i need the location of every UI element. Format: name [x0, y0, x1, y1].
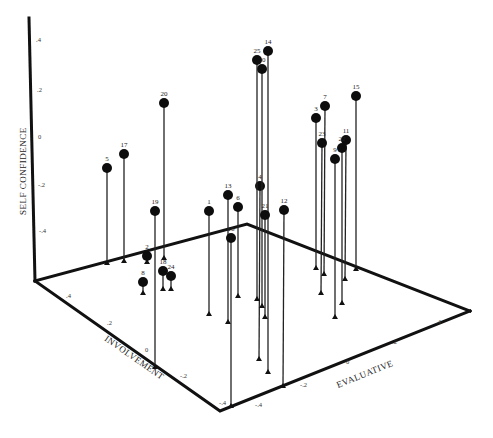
y-tick: -.2 — [300, 381, 307, 388]
3d-scatter-chart: .4 .2 0 -.2 -.4 SELF CONFIDENCE .4 .2 0 … — [0, 0, 493, 438]
point-marker — [311, 113, 321, 123]
x-axis-ticks: .4 .2 0 -.2 -.4 — [66, 292, 227, 406]
z-axis-title: SELF CONFIDENCE — [18, 127, 28, 215]
point-marker — [138, 277, 148, 287]
point-label: 24 — [168, 263, 176, 271]
point-marker — [263, 46, 273, 56]
point-base-marker — [342, 276, 348, 281]
data-point: 2 — [142, 243, 152, 264]
point-label: 23 — [319, 130, 327, 138]
point-marker — [252, 55, 262, 65]
point-label: 15 — [353, 83, 361, 91]
point-label: 13 — [225, 182, 233, 190]
z-tick: .2 — [37, 86, 42, 93]
point-label: 19 — [152, 198, 160, 206]
point-base-marker — [225, 319, 231, 324]
point-stem — [345, 140, 346, 280]
point-base-marker — [206, 311, 212, 316]
point-marker — [279, 205, 289, 215]
z-tick: -.2 — [38, 181, 45, 188]
data-point: 15 — [351, 83, 361, 271]
point-base-marker — [256, 356, 262, 361]
point-marker — [226, 233, 236, 243]
data-point: 17 — [119, 141, 129, 263]
point-marker — [330, 154, 340, 164]
point-marker — [320, 101, 330, 111]
point-marker — [204, 206, 214, 216]
point-base-marker — [321, 271, 327, 276]
x-tick: .2 — [107, 319, 112, 326]
point-marker — [317, 138, 327, 148]
point-label: 16 — [228, 225, 236, 233]
point-marker — [150, 206, 160, 216]
point-marker — [233, 202, 243, 212]
point-label: 7 — [323, 93, 327, 101]
x-tick: -.4 — [219, 399, 227, 406]
point-marker — [166, 271, 176, 281]
point-marker — [257, 64, 267, 74]
point-label: 6 — [236, 194, 240, 202]
point-stem — [259, 186, 260, 360]
floor-back-edge — [35, 224, 470, 311]
point-label: 2 — [145, 243, 149, 251]
data-point: 23 — [317, 130, 327, 295]
point-label: 5 — [105, 155, 109, 163]
y-tick: 0 — [346, 358, 349, 365]
point-stem — [321, 143, 322, 294]
axes-frame — [29, 18, 470, 411]
point-marker — [260, 210, 270, 220]
data-point: 1 — [204, 198, 214, 316]
data-point: 8 — [138, 269, 148, 295]
x-axis-title: INVOLVEMENT — [103, 333, 166, 381]
point-marker — [119, 149, 129, 159]
point-base-marker — [265, 369, 271, 374]
data-point: 5 — [102, 155, 112, 265]
point-label: 22 — [339, 135, 347, 143]
point-label: 25 — [254, 47, 262, 55]
x-tick: 0 — [145, 346, 148, 353]
point-base-marker — [235, 293, 241, 298]
z-axis-ticks: .4 .2 0 -.2 -.4 — [36, 36, 47, 234]
z-tick: .4 — [36, 36, 42, 43]
data-point: 9 — [330, 146, 340, 319]
z-tick: 0 — [38, 133, 41, 140]
point-marker — [223, 190, 233, 200]
y-tick: -.4 — [255, 401, 263, 408]
point-label: 3 — [314, 105, 318, 113]
x-tick: -.2 — [180, 372, 187, 379]
z-tick: -.4 — [39, 227, 47, 234]
point-marker — [159, 98, 169, 108]
y-tick: .2 — [392, 338, 397, 345]
data-point: 6 — [233, 194, 243, 298]
floor-front-edge — [35, 281, 470, 411]
point-label: 21 — [262, 202, 270, 210]
point-base-marker — [318, 290, 324, 295]
point-label: 20 — [161, 90, 169, 98]
point-base-marker — [332, 314, 338, 319]
point-base-marker — [140, 290, 146, 295]
point-marker — [337, 143, 347, 153]
x-tick: .4 — [66, 292, 72, 299]
point-marker — [102, 163, 112, 173]
point-marker — [351, 91, 361, 101]
data-point: 19 — [150, 198, 160, 369]
data-points: 1234567891011121314151617181920212223242… — [102, 38, 361, 408]
data-point: 24 — [166, 263, 176, 291]
point-label: 11 — [343, 127, 350, 135]
point-marker — [142, 251, 152, 261]
data-point: 20 — [159, 90, 169, 260]
z-axis-line — [29, 18, 35, 281]
point-label: 9 — [333, 146, 337, 154]
point-label: 14 — [265, 38, 273, 46]
point-label: 17 — [121, 141, 129, 149]
point-base-marker — [168, 286, 174, 291]
point-base-marker — [262, 314, 268, 319]
point-label: 8 — [141, 269, 145, 277]
point-label: 12 — [281, 197, 289, 205]
point-base-marker — [313, 265, 319, 270]
point-base-marker — [160, 286, 166, 291]
point-label: 1 — [207, 198, 211, 206]
data-point: 12 — [279, 197, 289, 388]
y-tick: .4 — [436, 318, 442, 325]
point-base-marker — [339, 300, 345, 305]
